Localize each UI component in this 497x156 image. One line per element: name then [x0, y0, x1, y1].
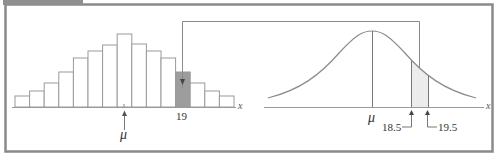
diagram-figure	[0, 0, 497, 156]
left-mu-arrowhead-icon	[122, 111, 127, 117]
histogram-bar	[103, 45, 118, 107]
histogram-bar	[146, 51, 161, 107]
histogram-bar	[59, 72, 74, 107]
upper-bound-pointer	[428, 113, 438, 127]
connector-line	[183, 22, 420, 89]
histogram-bar	[15, 96, 30, 107]
left-mean-label: μ	[120, 128, 127, 142]
histogram-bar	[117, 34, 132, 107]
figure-tab	[3, 0, 83, 5]
lower-bound-arrowhead-icon	[409, 110, 414, 115]
upper-bound-arrowhead-icon	[425, 110, 430, 115]
right-axis-label: x	[486, 101, 490, 111]
histogram-bar	[44, 83, 59, 107]
histogram-bar	[190, 83, 205, 107]
left-axis-label: x	[238, 101, 242, 111]
lower-bound-label: 18.5	[382, 122, 401, 133]
histogram-bar	[30, 91, 45, 107]
histogram	[15, 34, 234, 107]
histogram-bar	[132, 44, 147, 107]
histogram-bar	[88, 51, 103, 107]
upper-bound-label: 19.5	[438, 122, 457, 133]
histogram-bar	[73, 58, 88, 107]
histogram-bar	[205, 91, 220, 107]
histogram-bar	[161, 58, 176, 107]
right-mean-label: μ	[368, 111, 375, 125]
highlight-value-label: 19	[176, 111, 187, 122]
histogram-bar	[219, 96, 234, 107]
lower-bound-pointer	[402, 113, 412, 127]
